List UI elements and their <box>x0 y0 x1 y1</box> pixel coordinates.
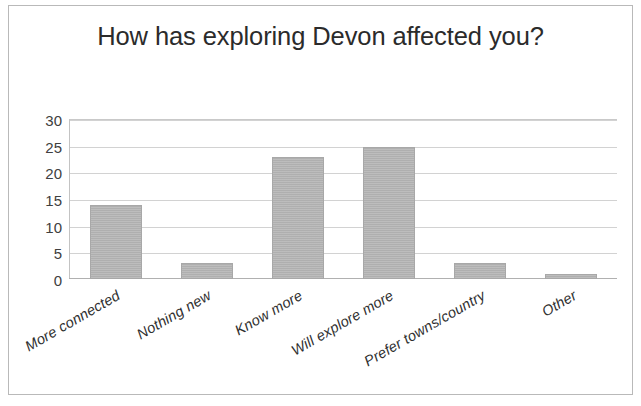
bar[interactable] <box>181 263 233 279</box>
bar[interactable] <box>545 274 597 279</box>
y-axis-tick-label: 10 <box>22 218 62 235</box>
bar[interactable] <box>90 205 142 279</box>
plot-area-wrapper: 30 25 20 15 10 5 0 <box>69 119 617 279</box>
y-axis-tick-label: 15 <box>22 192 62 209</box>
x-axis-labels: More connectedNothing newKnow moreWill e… <box>69 281 617 393</box>
bar-series <box>70 120 617 279</box>
x-axis-label-slot: Nothing new <box>160 281 251 393</box>
bar-slot <box>435 120 526 279</box>
y-axis-tick-label: 5 <box>22 245 62 262</box>
bar-slot <box>344 120 435 279</box>
y-axis-tick-label: 25 <box>22 138 62 155</box>
y-axis-tick-label: 30 <box>22 112 62 129</box>
y-axis-tick-label: 0 <box>22 272 62 289</box>
plot-area: 30 25 20 15 10 5 0 <box>69 119 617 279</box>
y-axis-tick-label: 20 <box>22 165 62 182</box>
x-axis-label-slot: Other <box>526 281 617 393</box>
chart-title: How has exploring Devon affected you? <box>9 20 632 52</box>
chart-container: How has exploring Devon affected you? 30… <box>8 5 633 395</box>
x-axis-tick-label: More connected <box>22 287 122 354</box>
bar[interactable] <box>454 263 506 279</box>
x-axis-label-slot: Prefer towns/country <box>434 281 525 393</box>
bar-slot <box>70 120 161 279</box>
bar[interactable] <box>363 147 415 280</box>
bar-slot <box>526 120 617 279</box>
bar-slot <box>161 120 252 279</box>
x-axis-tick-label: Other <box>539 287 579 319</box>
bar[interactable] <box>272 157 324 279</box>
bar-slot <box>252 120 343 279</box>
